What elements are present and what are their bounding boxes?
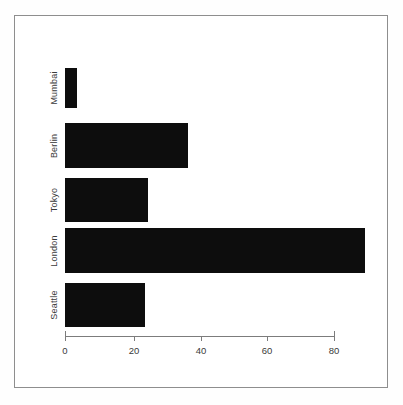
category-label-mumbai: Mumbai xyxy=(49,58,59,118)
bar-mumbai xyxy=(65,68,77,108)
x-tick-60 xyxy=(267,336,268,341)
bar-london xyxy=(65,228,365,273)
x-tick-label-40: 40 xyxy=(186,345,216,356)
category-label-london: London xyxy=(49,221,59,281)
x-tick-0 xyxy=(65,336,66,341)
bar-tokyo xyxy=(65,178,148,222)
plot-region: Mumbai Berlin Tokyo London Seattle 0 20 … xyxy=(0,0,403,405)
x-tick-label-0: 0 xyxy=(50,345,80,356)
x-tick-label-60: 60 xyxy=(252,345,282,356)
x-tick-label-80: 80 xyxy=(319,345,349,356)
x-axis-line xyxy=(65,336,334,337)
category-label-seattle: Seattle xyxy=(49,275,59,335)
x-tick-label-20: 20 xyxy=(119,345,149,356)
bar-seattle xyxy=(65,283,145,327)
x-tick-80 xyxy=(334,336,335,341)
category-label-berlin: Berlin xyxy=(49,116,59,176)
x-tick-20 xyxy=(134,336,135,341)
bar-berlin xyxy=(65,123,188,168)
bar-chart-figure: Mumbai Berlin Tokyo London Seattle 0 20 … xyxy=(0,0,403,405)
x-tick-40 xyxy=(201,336,202,341)
